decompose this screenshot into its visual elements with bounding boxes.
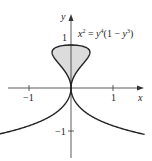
y-axis-arrow-icon bbox=[69, 14, 74, 21]
x-tick-label: 1 bbox=[111, 92, 116, 103]
y-tick-label: 1 bbox=[62, 32, 67, 43]
eq-rhs-mid: (1 − bbox=[104, 28, 123, 40]
x-axis-label: x bbox=[137, 92, 143, 103]
x-tick-label: −1 bbox=[23, 92, 34, 103]
x-axis-arrow-icon bbox=[137, 86, 144, 91]
curve-plot: −111−1 x y x2 = y4(1 − y3) bbox=[0, 0, 152, 161]
y-tick-label: −1 bbox=[55, 126, 66, 137]
equation-annotation: x2 = y4(1 − y3) bbox=[77, 28, 133, 40]
y-axis-label: y bbox=[60, 11, 66, 22]
eq-rhs-end: ) bbox=[130, 28, 133, 40]
eq-equals: = bbox=[85, 28, 96, 39]
